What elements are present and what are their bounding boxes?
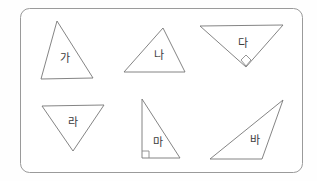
triangle-ma-label: 마: [153, 136, 163, 149]
figure-canvas: 가 나 다 라 마 바: [0, 0, 317, 181]
triangle-ba-label: 바: [250, 134, 260, 147]
triangle-figure: 가 나 다 라 마 바: [0, 0, 317, 181]
triangle-ga-label: 가: [60, 52, 70, 65]
triangle-ra-label: 라: [68, 116, 78, 129]
triangle-da-label: 다: [238, 37, 248, 50]
triangle-na-label: 나: [154, 49, 164, 62]
